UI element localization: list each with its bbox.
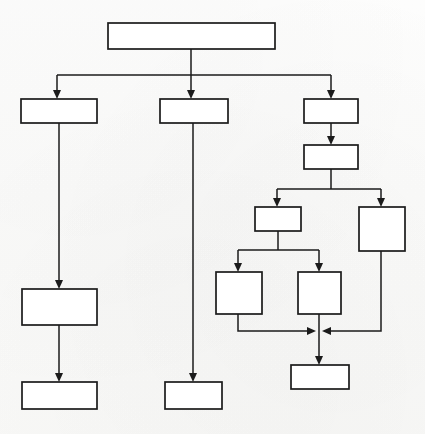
node-layer	[21, 23, 405, 409]
node-c-leaf-2-box[interactable]	[298, 272, 341, 314]
arrowhead-merge-from-right	[322, 327, 331, 335]
arrowhead-b-end	[189, 373, 197, 382]
node-b-end-box[interactable]	[165, 382, 222, 409]
node-a-end[interactable]	[22, 382, 97, 409]
arrowhead-c-second	[327, 136, 335, 145]
node-b-end[interactable]	[165, 382, 222, 409]
arrowhead-a-end	[55, 373, 63, 382]
node-branch-c[interactable]	[304, 99, 358, 123]
arrowhead-a-mid	[55, 280, 63, 289]
arrowhead-c-right-tall	[377, 198, 385, 207]
flowchart-canvas	[0, 0, 425, 434]
node-branch-a-box[interactable]	[21, 99, 97, 123]
node-branch-b-box[interactable]	[160, 99, 228, 123]
node-branch-a[interactable]	[21, 99, 97, 123]
node-root-box[interactable]	[108, 23, 275, 49]
node-c-leaf-1[interactable]	[216, 272, 262, 314]
node-branch-b[interactable]	[160, 99, 228, 123]
node-c-end-box[interactable]	[291, 365, 349, 389]
node-c-leaf-1-box[interactable]	[216, 272, 262, 314]
node-a-mid-box[interactable]	[22, 289, 97, 325]
arrowhead-c-leaf-2	[315, 263, 323, 272]
arrowhead-merge-from-left	[307, 327, 316, 335]
arrowhead-c-left	[273, 198, 281, 207]
arrowhead-branch-a	[53, 90, 61, 99]
node-c-left-box[interactable]	[255, 207, 301, 231]
arrowhead-c-leaf-1	[234, 263, 242, 272]
node-c-end[interactable]	[291, 365, 349, 389]
node-branch-c-box[interactable]	[304, 99, 358, 123]
node-a-end-box[interactable]	[22, 382, 97, 409]
node-c-right-tall[interactable]	[359, 207, 405, 251]
node-a-mid[interactable]	[22, 289, 97, 325]
arrowhead-c-end	[315, 356, 323, 365]
node-c-right-tall-box[interactable]	[359, 207, 405, 251]
node-c-left[interactable]	[255, 207, 301, 231]
flowchart-diagram	[0, 0, 425, 434]
node-root[interactable]	[108, 23, 275, 49]
edge-leaf-1-to-merge	[238, 314, 310, 331]
arrowhead-branch-b	[187, 90, 195, 99]
node-c-leaf-2[interactable]	[298, 272, 341, 314]
arrowhead-branch-c	[327, 90, 335, 99]
node-c-second-box[interactable]	[304, 145, 358, 169]
node-c-second[interactable]	[304, 145, 358, 169]
